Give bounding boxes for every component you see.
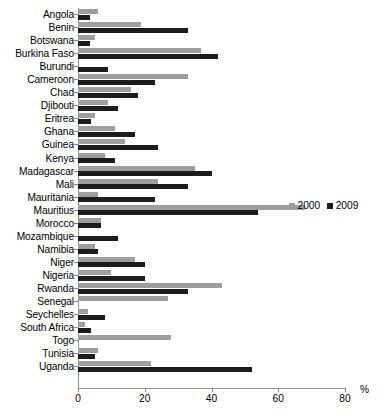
bar-group bbox=[78, 34, 378, 47]
bar-rows: AngolaBeninBotswanaBurkina FasoBurundiCa… bbox=[0, 8, 381, 373]
bar-2009 bbox=[78, 158, 115, 163]
bar-2009 bbox=[78, 249, 98, 254]
bar-2000 bbox=[78, 153, 105, 158]
bar-2000 bbox=[78, 283, 222, 288]
x-axis-tick bbox=[212, 388, 213, 392]
category-label: Ghana bbox=[0, 125, 74, 138]
bar-row: Djibouti bbox=[0, 99, 381, 112]
bar-row: Rwanda bbox=[0, 282, 381, 295]
bar-2009 bbox=[78, 106, 118, 111]
bar-2000 bbox=[78, 244, 95, 249]
bar-2000 bbox=[78, 322, 85, 327]
bar-group bbox=[78, 308, 378, 321]
bar-row: Mozambique bbox=[0, 230, 381, 243]
category-label: Mali bbox=[0, 178, 74, 191]
bar-2000 bbox=[78, 335, 171, 340]
category-label: Senegal bbox=[0, 295, 74, 308]
category-label: Madagascar bbox=[0, 165, 74, 178]
bar-2000 bbox=[78, 270, 111, 275]
bar-row: Morocco bbox=[0, 217, 381, 230]
category-label: Kenya bbox=[0, 152, 74, 165]
bar-group bbox=[78, 243, 378, 256]
bar-2000 bbox=[78, 218, 101, 223]
bar-2000 bbox=[78, 100, 108, 105]
bar-row: Benin bbox=[0, 21, 381, 34]
category-label: Burundi bbox=[0, 60, 74, 73]
x-axis-unit-label: % bbox=[360, 384, 369, 395]
bar-group bbox=[78, 295, 378, 308]
bar-2009 bbox=[78, 132, 135, 137]
bar-row: Cameroon bbox=[0, 73, 381, 86]
category-label: Rwanda bbox=[0, 282, 74, 295]
bar-2000 bbox=[78, 205, 305, 210]
bar-row: Burundi bbox=[0, 60, 381, 73]
bar-group bbox=[78, 47, 378, 60]
category-label: Uganda bbox=[0, 360, 74, 373]
bar-group bbox=[78, 21, 378, 34]
category-label: Eritrea bbox=[0, 112, 74, 125]
bar-2000 bbox=[78, 139, 125, 144]
bar-group bbox=[78, 217, 378, 230]
bar-group bbox=[78, 152, 378, 165]
category-label: Botswana bbox=[0, 34, 74, 47]
bar-2000 bbox=[78, 22, 141, 27]
legend-swatch-icon-2000 bbox=[289, 203, 295, 209]
bar-2000 bbox=[78, 126, 115, 131]
bar-row: Chad bbox=[0, 86, 381, 99]
bar-row: Seychelles bbox=[0, 308, 381, 321]
bar-group bbox=[78, 347, 378, 360]
bar-2009 bbox=[78, 367, 252, 372]
bar-group bbox=[78, 269, 378, 282]
category-label: South Africa bbox=[0, 321, 74, 334]
category-label: Mauritius bbox=[0, 204, 74, 217]
x-axis-tick bbox=[78, 388, 79, 392]
bar-row: Eritrea bbox=[0, 112, 381, 125]
bar-row: Tunisia bbox=[0, 347, 381, 360]
bar-group bbox=[78, 8, 378, 21]
x-axis-tick bbox=[345, 388, 346, 392]
bar-2009 bbox=[78, 171, 212, 176]
legend-swatch-icon-2009 bbox=[327, 203, 333, 209]
bar-row: Ghana bbox=[0, 125, 381, 138]
bar-row: Angola bbox=[0, 8, 381, 21]
bar-2009 bbox=[78, 41, 90, 46]
bar-2000 bbox=[78, 113, 95, 118]
category-label: Nigeria bbox=[0, 269, 74, 282]
legend-item-2000: 2000 bbox=[289, 200, 320, 211]
bar-group bbox=[78, 99, 378, 112]
bar-2009 bbox=[78, 210, 258, 215]
plot-area: AngolaBeninBotswanaBurkina FasoBurundiCa… bbox=[0, 0, 381, 416]
bar-2000 bbox=[78, 361, 151, 366]
bar-row: Uganda bbox=[0, 360, 381, 373]
category-label: Mauritania bbox=[0, 191, 74, 204]
bar-2000 bbox=[78, 309, 88, 314]
bar-2000 bbox=[78, 166, 195, 171]
bar-row: Togo bbox=[0, 334, 381, 347]
bar-2009 bbox=[78, 276, 145, 281]
x-axis-tick-label: 60 bbox=[258, 393, 298, 404]
bar-group bbox=[78, 334, 378, 347]
bar-2009 bbox=[78, 328, 91, 333]
bar-2000 bbox=[78, 48, 201, 53]
bar-2000 bbox=[78, 9, 98, 14]
bar-group bbox=[78, 73, 378, 86]
bar-2009 bbox=[78, 315, 105, 320]
bar-row: Guinea bbox=[0, 138, 381, 151]
category-label: Niger bbox=[0, 256, 74, 269]
category-label: Mozambique bbox=[0, 230, 74, 243]
bar-2000 bbox=[78, 296, 168, 301]
bar-2009 bbox=[78, 236, 118, 241]
bar-group bbox=[78, 256, 378, 269]
legend-label-2009: 2009 bbox=[336, 200, 359, 211]
bar-group bbox=[78, 360, 378, 373]
x-axis-tick bbox=[145, 388, 146, 392]
legend-label-2000: 2000 bbox=[298, 200, 321, 211]
bar-2009 bbox=[78, 184, 188, 189]
bar-group bbox=[78, 321, 378, 334]
bar-2009 bbox=[78, 28, 188, 33]
category-label: Chad bbox=[0, 86, 74, 99]
bar-group bbox=[78, 60, 378, 73]
category-label: Togo bbox=[0, 334, 74, 347]
bar-row: Mali bbox=[0, 178, 381, 191]
bar-group bbox=[78, 86, 378, 99]
